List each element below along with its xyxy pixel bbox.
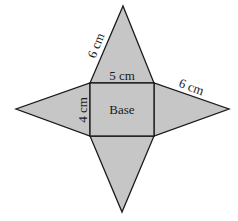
base-width-label: 5 cm bbox=[109, 68, 135, 83]
bottom-triangle-face bbox=[90, 136, 154, 212]
net-canvas: Base 5 cm 4 cm 6 cm 6 cm bbox=[0, 0, 238, 221]
base-label: Base bbox=[109, 102, 135, 117]
base-height-label: 4 cm bbox=[75, 97, 90, 123]
pyramid-net-diagram: Base 5 cm 4 cm 6 cm 6 cm bbox=[0, 0, 238, 221]
